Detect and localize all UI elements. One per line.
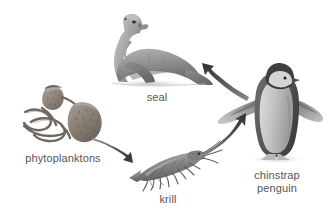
phytoplankton-icon	[24, 85, 102, 142]
label-chinstrap-penguin-line1: chinstrap	[229, 169, 325, 182]
label-chinstrap-penguin: chinstrap penguin	[229, 169, 325, 195]
label-seal: seal	[147, 91, 168, 104]
seal-icon	[102, 14, 213, 89]
label-krill: krill	[160, 193, 177, 206]
food-chain-diagram: seal phytoplanktons krill chinstrap peng…	[0, 0, 328, 217]
krill-icon	[129, 141, 222, 191]
label-chinstrap-penguin-line2: penguin	[229, 182, 325, 195]
label-phytoplanktons: phytoplanktons	[25, 152, 100, 165]
penguin-icon	[218, 63, 323, 164]
